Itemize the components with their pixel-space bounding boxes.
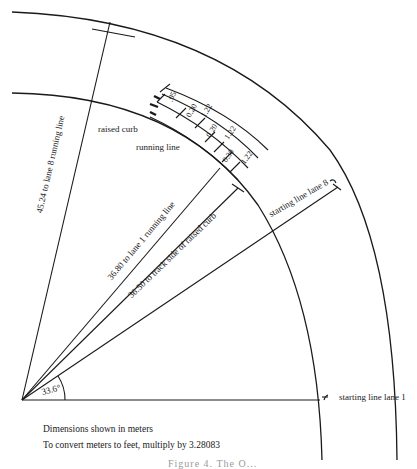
start-lane1-label: starting line lane 1 (339, 393, 406, 402)
radius-lane1-line (22, 168, 220, 400)
units-note: Dimensions shown in meters (43, 424, 153, 434)
raised-curb-label: raised curb (98, 125, 138, 134)
figure-caption: Figure 4. The O... (168, 458, 257, 469)
running-line-label: running line (136, 143, 180, 152)
lane-line-4 (166, 88, 268, 150)
start-lane8-line (22, 187, 338, 400)
conversion-note: To convert meters to feet, multiply by 3… (43, 440, 220, 450)
